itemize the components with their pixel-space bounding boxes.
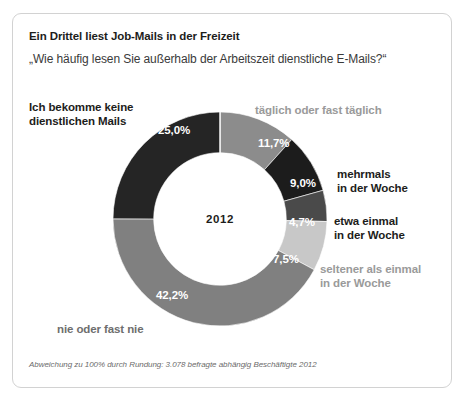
value-label-never: 42,2%	[156, 289, 188, 301]
value-label-daily: 11,7%	[258, 137, 289, 149]
value-label-once-week: 4,7%	[289, 216, 315, 228]
category-label-once-week: etwa einmalin der Woche	[334, 214, 405, 242]
category-label-several-week: mehrmalsin der Woche	[337, 167, 408, 195]
value-label-several-week: 9,0%	[290, 177, 316, 189]
infographic-card: Ein Drittel liest Job-Mails in der Freiz…	[0, 0, 464, 401]
value-label-no-mails: 25,0%	[158, 124, 190, 136]
category-label-never: nie oder fast nie	[57, 322, 144, 336]
page-subtitle: „Wie häufig lesen Sie außerhalb der Arbe…	[29, 52, 386, 66]
category-label-less-once: seltener als einmalin der Woche	[320, 262, 421, 290]
page-title: Ein Drittel liest Job-Mails in der Freiz…	[29, 30, 239, 42]
value-label-less-once: 7,5%	[273, 253, 299, 265]
footnote: Abweichung zu 100% durch Rundung: 3.078 …	[29, 360, 317, 369]
category-label-no-mails: Ich bekomme keinedienstlichen Mails	[29, 100, 133, 128]
category-label-daily: täglich oder fast täglich	[255, 103, 382, 117]
donut-segment	[113, 219, 314, 326]
